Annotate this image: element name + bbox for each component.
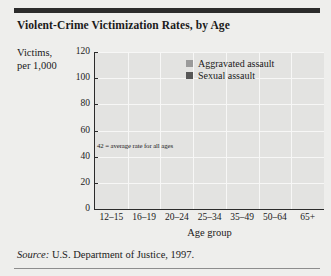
y-tick-label: 20 xyxy=(81,177,91,187)
legend-item: Sexual assault xyxy=(186,70,274,82)
y-axis-label: Victims, per 1,000 xyxy=(17,46,57,72)
source-note: Source: U.S. Department of Justice, 1997… xyxy=(17,249,194,260)
y-tick-mark xyxy=(95,183,98,184)
y-tick-label: 100 xyxy=(76,72,90,82)
x-tick-label: 16–19 xyxy=(132,212,156,222)
x-tick-label: 65+ xyxy=(300,212,315,222)
y-tick-label: 40 xyxy=(81,151,91,161)
bottom-rule xyxy=(14,268,320,269)
y-tick-mark xyxy=(95,157,98,158)
x-axis-ticks: 12–1516–1920–2425–3435–4950–6465+ xyxy=(95,212,324,226)
legend-label: Sexual assault xyxy=(198,70,255,82)
y-tick-mark xyxy=(95,131,98,132)
y-tick-label: 80 xyxy=(81,98,91,108)
chart-title: Violent-Crime Victimization Rates, by Ag… xyxy=(17,19,230,31)
y-tick-mark xyxy=(95,78,98,79)
gridline-vertical xyxy=(160,52,161,209)
gridline-horizontal xyxy=(95,104,324,105)
x-axis-label: Age group xyxy=(95,227,324,238)
gridline-vertical xyxy=(128,52,129,209)
y-tick-label: 60 xyxy=(81,125,91,135)
y-axis-label-line2: per 1,000 xyxy=(17,59,57,72)
gridline-horizontal xyxy=(95,131,324,132)
x-tick-label: 20–24 xyxy=(165,212,189,222)
legend-swatch-icon xyxy=(186,72,193,79)
x-tick-label: 25–34 xyxy=(198,212,222,222)
legend-label: Aggravated assault xyxy=(198,58,274,70)
legend-item: Aggravated assault xyxy=(186,58,274,70)
x-tick-label: 12–15 xyxy=(99,212,123,222)
x-axis-line xyxy=(94,209,324,210)
x-tick-label: 35–49 xyxy=(230,212,254,222)
source-text: U.S. Department of Justice, 1997. xyxy=(52,249,194,260)
y-axis-ticks: 020406080100120 xyxy=(56,52,90,209)
x-tick-label: 50–64 xyxy=(263,212,287,222)
figure-container: Violent-Crime Victimization Rates, by Ag… xyxy=(0,0,331,276)
gridline-horizontal xyxy=(95,52,324,53)
source-prefix: Source: xyxy=(17,249,49,260)
legend-swatch-icon xyxy=(186,60,193,67)
chart-legend: Aggravated assaultSexual assault xyxy=(186,58,274,81)
top-rule xyxy=(14,8,320,13)
y-tick-mark xyxy=(95,52,98,53)
y-tick-mark xyxy=(95,209,98,210)
gridline-horizontal xyxy=(95,157,324,158)
y-tick-mark xyxy=(95,104,98,105)
gridline-horizontal xyxy=(95,183,324,184)
y-tick-label: 0 xyxy=(85,203,90,213)
y-tick-label: 120 xyxy=(76,46,90,56)
gridline-vertical xyxy=(291,52,292,209)
average-rate-annotation: 42 = average rate for all ages xyxy=(97,142,173,149)
y-axis-label-line1: Victims, xyxy=(17,46,57,59)
